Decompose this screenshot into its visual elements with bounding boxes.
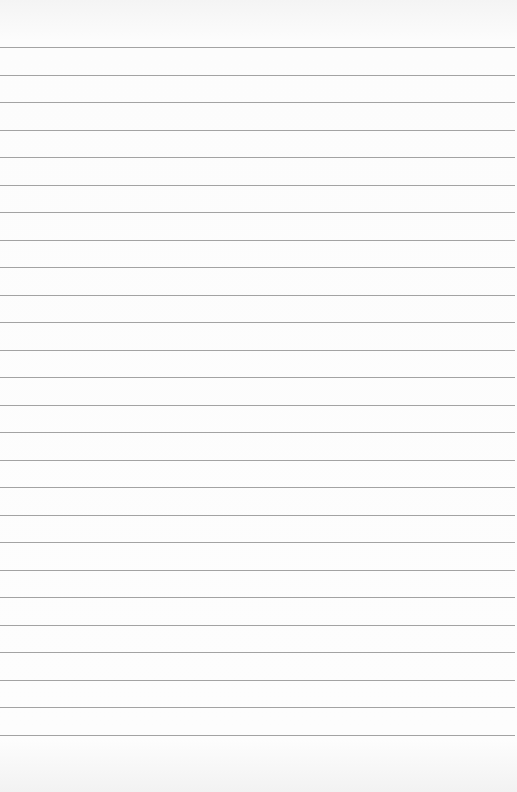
lined-paper-sheet [0,0,517,792]
ruled-line [0,652,515,653]
ruled-line [0,707,515,708]
ruled-line [0,102,515,103]
ruled-line [0,680,515,681]
ruled-line [0,267,515,268]
ruled-line [0,212,515,213]
ruled-line [0,625,515,626]
ruled-line [0,350,515,351]
ruled-line [0,377,515,378]
ruled-line [0,240,515,241]
ruled-line [0,432,515,433]
ruled-line [0,157,515,158]
ruled-line [0,487,515,488]
ruled-line [0,515,515,516]
ruled-line [0,460,515,461]
ruled-line [0,185,515,186]
ruled-line [0,47,515,48]
ruled-line [0,735,515,736]
ruled-line [0,597,515,598]
ruled-line [0,405,515,406]
ruled-line [0,542,515,543]
ruled-line [0,322,515,323]
ruled-line [0,570,515,571]
ruled-line [0,130,515,131]
ruled-line [0,295,515,296]
ruled-line [0,75,515,76]
